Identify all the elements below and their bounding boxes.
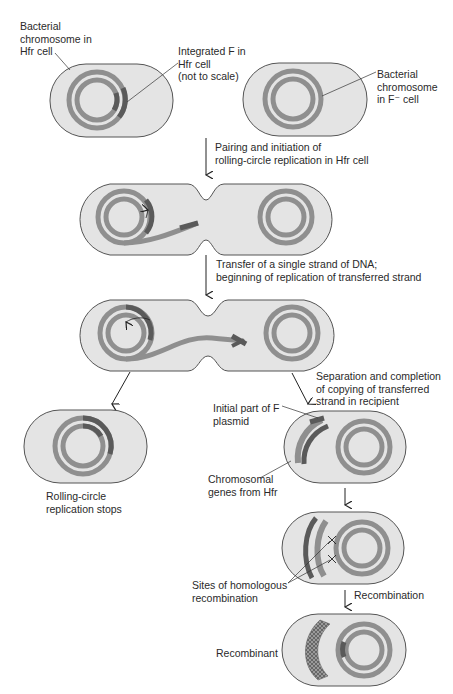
- label-line: of copying of transferred: [316, 383, 441, 396]
- label-recomb-sites: Sites of homologous recombination: [192, 579, 287, 604]
- label-line: Hfr cell: [178, 58, 246, 71]
- label-line: in F⁻ cell: [377, 93, 438, 106]
- arrow-to-rolling-stops: [112, 372, 130, 404]
- label-recombinant: Recombinant: [216, 647, 278, 660]
- label-recombination: Recombination: [354, 589, 424, 602]
- label-line: beginning of replication of transferred …: [216, 271, 421, 284]
- label-fminus-chromosome: Bacterial chromosome in F⁻ cell: [377, 68, 438, 106]
- label-line: strand in recipient: [316, 395, 441, 408]
- label-line: Bacterial: [20, 20, 92, 33]
- label-hfr-chromosome: Bacterial chromosome in Hfr cell: [20, 20, 92, 58]
- label-line: Initial part of F: [213, 402, 280, 415]
- recombinant-cell: [282, 614, 406, 686]
- label-line: chromosome: [377, 81, 438, 94]
- label-line: recombination: [192, 592, 287, 605]
- label-step2: Transfer of a single strand of DNA; begi…: [216, 258, 421, 283]
- label-line: (not to scale): [178, 70, 246, 83]
- label-line: Sites of homologous: [192, 579, 287, 592]
- recombination-cell: [282, 512, 404, 584]
- label-rolling-stops: Rolling-circle replication stops: [46, 490, 122, 515]
- label-chromosomal-genes: Chromosomal genes from Hfr: [208, 473, 277, 498]
- label-line: Transfer of a single strand of DNA;: [216, 258, 421, 271]
- label-line: rolling-circle replication in Hfr cell: [215, 154, 368, 167]
- label-step3: Separation and completion of copying of …: [316, 370, 441, 408]
- label-line: Separation and completion: [316, 370, 441, 383]
- label-initial-f: Initial part of F plasmid: [213, 402, 280, 427]
- label-step1: Pairing and initiation of rolling-circle…: [215, 141, 368, 166]
- label-integrated-f: Integrated F in Hfr cell (not to scale): [178, 45, 246, 83]
- label-line: chromosome in: [20, 33, 92, 46]
- hfr-cell: [50, 64, 173, 137]
- arrow-to-separation: [292, 373, 308, 404]
- label-line: Rolling-circle: [46, 490, 122, 503]
- paired-cells-initiation: [80, 184, 332, 255]
- label-line: Bacterial: [377, 68, 438, 81]
- label-line: plasmid: [213, 415, 280, 428]
- label-line: genes from Hfr: [208, 486, 277, 499]
- fminus-cell: [243, 63, 367, 136]
- label-line: Hfr cell: [20, 45, 92, 58]
- label-line: Chromosomal: [208, 473, 277, 486]
- label-line: replication stops: [46, 503, 122, 516]
- recipient-cell: [284, 411, 406, 483]
- hfr-cell-after: [24, 410, 147, 483]
- label-line: Integrated F in: [178, 45, 246, 58]
- paired-cells-transfer: [80, 300, 334, 371]
- label-line: Pairing and initiation of: [215, 141, 368, 154]
